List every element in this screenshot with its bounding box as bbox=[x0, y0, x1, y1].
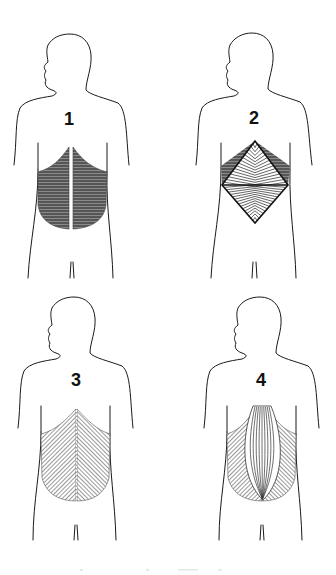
buttock-cleft bbox=[74, 525, 78, 540]
panel-4: 4 bbox=[204, 297, 319, 540]
muscle-region-left bbox=[41, 409, 76, 501]
muscle-region-right bbox=[77, 409, 110, 501]
left-hip bbox=[211, 168, 221, 278]
right-hip bbox=[110, 434, 116, 540]
right-hip bbox=[296, 434, 302, 540]
buttock-cleft bbox=[252, 262, 257, 278]
panel-3: 3 bbox=[18, 297, 133, 540]
muscle-region-right bbox=[73, 147, 107, 229]
panel-2: 2 bbox=[196, 33, 312, 278]
left-hip bbox=[219, 432, 227, 540]
bottom-residue bbox=[80, 569, 222, 571]
figure-canvas: 1 2 3 4 bbox=[0, 0, 336, 575]
panel-label: 4 bbox=[256, 370, 266, 390]
body-outline bbox=[14, 34, 129, 165]
right-hip bbox=[290, 170, 296, 278]
buttock-cleft bbox=[260, 525, 264, 540]
body-outline bbox=[18, 297, 133, 428]
diamond-pattern bbox=[222, 141, 288, 223]
panel-label: 2 bbox=[249, 108, 259, 128]
right-hip bbox=[107, 172, 113, 278]
panel-label: 3 bbox=[71, 370, 81, 390]
left-hip bbox=[28, 170, 38, 278]
panel-1: 1 bbox=[14, 34, 129, 278]
buttock-cleft bbox=[70, 262, 74, 278]
left-hip bbox=[33, 432, 41, 540]
panel-label: 1 bbox=[64, 109, 74, 129]
muscle-region-left bbox=[38, 147, 69, 229]
